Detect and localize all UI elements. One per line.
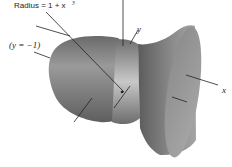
- x-axis-label: x: [221, 85, 226, 95]
- y-eq-leader: [34, 52, 50, 58]
- solid-of-revolution-figure: Radius = 1 + x 3 (y = −1) y x: [0, 0, 232, 167]
- radius-point: [121, 91, 124, 94]
- radius-label: Radius = 1 + x: [14, 1, 66, 10]
- y-eq-label: (y = −1): [9, 40, 40, 50]
- y-axis-label: y: [136, 24, 141, 34]
- neck-surface: [112, 39, 140, 124]
- radius-exponent: 3: [71, 0, 75, 6]
